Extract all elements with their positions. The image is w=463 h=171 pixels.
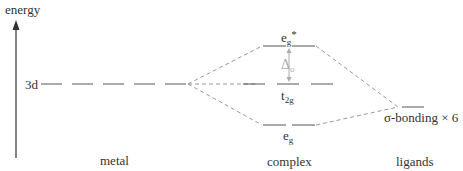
metal-correlation-lines (188, 46, 262, 125)
eg-label: eg (283, 129, 293, 145)
delta-o-label: Δo (281, 58, 295, 74)
column-label-ligands: ligands (396, 155, 434, 168)
energy-axis (13, 20, 20, 158)
eg-star-label: eg* (281, 29, 297, 47)
column-label-complex: complex (267, 155, 312, 168)
energy-axis-label: energy (5, 3, 40, 16)
ligand-sigma-label: σ-bonding × 6 (384, 111, 458, 124)
t2g-label: t2g (281, 89, 294, 105)
column-label-metal: metal (100, 154, 129, 167)
metal-3d-label: 3d (25, 78, 38, 91)
mo-diagram (0, 0, 463, 171)
